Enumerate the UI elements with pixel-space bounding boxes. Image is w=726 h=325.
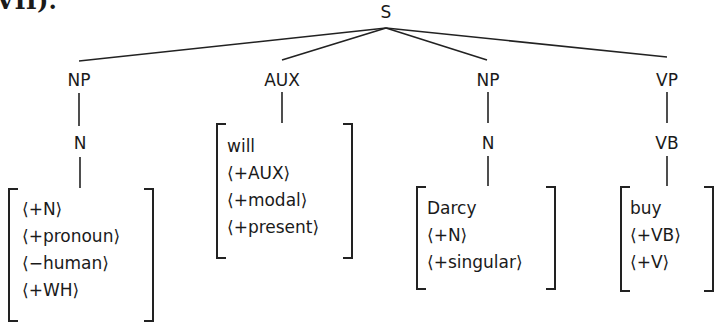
left-bracket xyxy=(620,186,630,292)
node-vb: VB xyxy=(655,133,678,153)
left-bracket xyxy=(8,188,18,322)
right-bracket xyxy=(343,123,353,259)
feature-bracket-np1: ⟨+N⟩ ⟨+pronoun⟩ ⟨−human⟩ ⟨+WH⟩ xyxy=(8,188,154,322)
feature-item: ⟨+V⟩ xyxy=(630,249,681,276)
node-vp: VP xyxy=(656,70,678,90)
left-bracket xyxy=(216,123,226,259)
right-bracket xyxy=(144,188,154,322)
feature-item: ⟨+modal⟩ xyxy=(227,187,319,214)
feature-item: ⟨+N⟩ xyxy=(427,222,523,249)
feature-bracket-vp: buy ⟨+VB⟩ ⟨+V⟩ xyxy=(620,186,714,292)
feature-bracket-np2: Darcy ⟨+N⟩ ⟨+singular⟩ xyxy=(416,186,556,290)
node-n-1: N xyxy=(74,133,87,153)
feature-item: ⟨+VB⟩ xyxy=(630,222,681,249)
node-np-1: NP xyxy=(68,70,91,90)
feature-item: ⟨+singular⟩ xyxy=(427,249,523,276)
node-n-2: N xyxy=(482,133,495,153)
feature-item: ⟨+pronoun⟩ xyxy=(22,223,120,250)
feature-item: ⟨−human⟩ xyxy=(22,250,120,277)
feature-item: will xyxy=(227,133,319,160)
right-bracket xyxy=(704,186,714,292)
node-aux: AUX xyxy=(264,70,300,90)
node-np-2: NP xyxy=(477,70,500,90)
right-bracket xyxy=(546,186,556,290)
feature-item: ⟨+AUX⟩ xyxy=(227,160,319,187)
edge-s-vp xyxy=(386,28,667,57)
edge-s-np1 xyxy=(79,28,386,61)
left-bracket xyxy=(416,186,426,290)
node-s: S xyxy=(381,2,392,22)
feature-item: buy xyxy=(630,195,681,222)
feature-item: ⟨+WH⟩ xyxy=(22,277,120,304)
feature-item: ⟨+N⟩ xyxy=(22,196,120,223)
feature-item: Darcy xyxy=(427,195,523,222)
feature-bracket-aux: will ⟨+AUX⟩ ⟨+modal⟩ ⟨+present⟩ xyxy=(216,123,353,259)
feature-item: ⟨+present⟩ xyxy=(227,214,319,241)
